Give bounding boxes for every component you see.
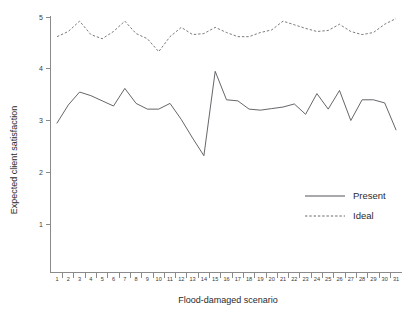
chart-container: 12345 1234567891011121314151617181920212… <box>0 0 418 315</box>
x-tick-label-18: 18 <box>246 276 252 282</box>
x-tick-label-3: 3 <box>78 276 81 282</box>
y-tick-label-1: 1 <box>39 221 43 228</box>
x-tick-label-7: 7 <box>123 276 126 282</box>
x-tick-label-16: 16 <box>223 276 229 282</box>
x-axis-group: 1234567891011121314151617181920212223242… <box>50 272 402 282</box>
x-tick-label-15: 15 <box>212 276 218 282</box>
x-tick-label-8: 8 <box>135 276 138 282</box>
x-axis-ticks: 1234567891011121314151617181920212223242… <box>55 273 399 282</box>
legend-label-present: Present <box>353 190 386 201</box>
chart-legend: PresentIdeal <box>305 190 386 221</box>
x-tick-label-1: 1 <box>55 276 58 282</box>
y-axis-group: 12345 <box>39 14 50 272</box>
x-tick-label-31: 31 <box>393 276 399 282</box>
legend-label-ideal: Ideal <box>353 210 374 221</box>
data-series-group <box>57 19 396 156</box>
x-tick-label-26: 26 <box>336 276 342 282</box>
x-tick-label-5: 5 <box>101 276 104 282</box>
x-tick-label-2: 2 <box>67 276 70 282</box>
x-tick-label-6: 6 <box>112 276 115 282</box>
x-tick-label-17: 17 <box>235 276 241 282</box>
x-tick-label-10: 10 <box>156 276 162 282</box>
x-tick-label-14: 14 <box>201 276 207 282</box>
x-tick-label-21: 21 <box>280 276 286 282</box>
line-chart: 12345 1234567891011121314151617181920212… <box>0 0 418 315</box>
y-tick-label-2: 2 <box>39 169 43 176</box>
x-tick-label-29: 29 <box>370 276 376 282</box>
x-tick-label-11: 11 <box>167 276 173 282</box>
y-tick-label-3: 3 <box>39 117 43 124</box>
y-tick-label-5: 5 <box>39 14 43 21</box>
y-axis-ticks: 12345 <box>39 14 50 228</box>
x-tick-label-9: 9 <box>146 276 149 282</box>
x-tick-label-13: 13 <box>189 276 195 282</box>
x-tick-label-25: 25 <box>325 276 331 282</box>
x-tick-label-23: 23 <box>302 276 308 282</box>
x-tick-label-30: 30 <box>382 276 388 282</box>
x-tick-label-27: 27 <box>348 276 354 282</box>
series-line-present <box>57 71 396 155</box>
series-line-ideal <box>57 19 396 52</box>
x-tick-label-24: 24 <box>314 276 320 282</box>
x-tick-label-20: 20 <box>269 276 275 282</box>
x-axis-title: Flood-damaged scenario <box>178 295 278 305</box>
x-tick-label-12: 12 <box>178 276 184 282</box>
x-tick-label-4: 4 <box>89 276 92 282</box>
x-tick-label-19: 19 <box>257 276 263 282</box>
y-axis-title: Expected client satisfaction <box>9 106 19 215</box>
x-tick-label-22: 22 <box>291 276 297 282</box>
x-tick-label-28: 28 <box>359 276 365 282</box>
y-tick-label-4: 4 <box>39 65 43 72</box>
